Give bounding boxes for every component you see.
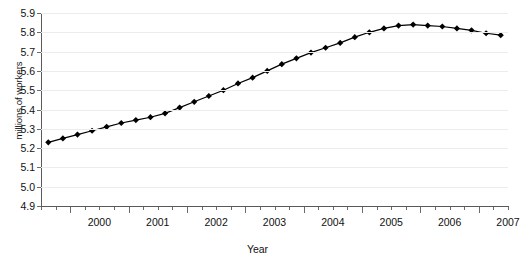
x-tick-major [70, 207, 71, 213]
data-point-marker [45, 139, 51, 145]
x-tick-minor [391, 207, 392, 210]
x-tick-minor [435, 207, 436, 210]
y-tick-mark [37, 110, 41, 111]
series-line [48, 25, 500, 143]
y-tick-mark [37, 129, 41, 130]
y-tick-label: 5.7 [1, 47, 35, 57]
data-point-marker [206, 93, 212, 99]
data-point-marker [352, 34, 358, 40]
data-point-marker [235, 80, 241, 86]
data-point-marker [118, 120, 124, 126]
gridline [41, 148, 508, 149]
x-tick-minor [289, 207, 290, 210]
y-tick-mark [37, 32, 41, 33]
data-point-marker [381, 25, 387, 31]
x-tick-minor [406, 207, 407, 210]
x-tick-minor [377, 207, 378, 210]
gridline [41, 71, 508, 72]
x-tick-minor [347, 207, 348, 210]
x-tick-label: 2000 [79, 216, 119, 228]
x-tick-major [187, 207, 188, 213]
y-tick-label: 5.8 [1, 27, 35, 37]
y-tick-mark [37, 52, 41, 53]
x-tick-major [245, 207, 246, 213]
x-tick-label: 2005 [371, 216, 411, 228]
x-tick-minor [114, 207, 115, 210]
y-tick-mark [37, 90, 41, 91]
data-point-marker [162, 110, 168, 116]
x-tick-minor [41, 207, 42, 210]
x-tick-minor [275, 207, 276, 210]
y-tick-label: 5.9 [1, 8, 35, 18]
data-point-marker [250, 75, 256, 81]
y-tick-label: 5.6 [1, 66, 35, 76]
x-tick-minor [99, 207, 100, 210]
gridline [41, 32, 508, 33]
x-tick-minor [56, 207, 57, 210]
x-tick-label: 2007 [488, 216, 524, 228]
data-point-marker [133, 117, 139, 123]
x-tick-minor [231, 207, 232, 210]
data-point-marker [279, 61, 285, 67]
x-tick-major [362, 207, 363, 213]
x-tick-minor [158, 207, 159, 210]
gridline [41, 167, 508, 168]
x-tick-minor [260, 207, 261, 210]
y-tick-label: 5.1 [1, 162, 35, 172]
data-point-marker [322, 45, 328, 51]
x-tick-minor [493, 207, 494, 210]
x-tick-minor [318, 207, 319, 210]
x-axis-title: Year [0, 243, 515, 255]
gridline [41, 52, 508, 53]
y-tick-mark [37, 148, 41, 149]
y-tick-label: 4.9 [1, 201, 35, 211]
plot-area [41, 13, 508, 206]
x-tick-major [420, 207, 421, 213]
x-tick-minor [333, 207, 334, 210]
x-tick-minor [143, 207, 144, 210]
data-point-marker [410, 21, 416, 27]
y-tick-label: 5.4 [1, 105, 35, 115]
data-point-marker [425, 22, 431, 28]
x-tick-label: 2003 [255, 216, 295, 228]
y-tick-mark [37, 187, 41, 188]
x-tick-label: 2004 [313, 216, 353, 228]
data-point-marker [60, 135, 66, 141]
data-point-marker [74, 131, 80, 137]
data-point-marker [337, 40, 343, 46]
y-tick-mark [37, 13, 41, 14]
y-tick-mark [37, 71, 41, 72]
x-tick-minor [464, 207, 465, 210]
y-tick-label: 5.2 [1, 143, 35, 153]
x-tick-major [479, 207, 480, 213]
x-tick-label: 2001 [138, 216, 178, 228]
x-tick-minor [216, 207, 217, 210]
x-tick-minor [508, 207, 509, 210]
y-tick-label: 5.0 [1, 182, 35, 192]
data-point-marker [439, 23, 445, 29]
y-tick-label: 5.5 [1, 85, 35, 95]
y-tick-mark [37, 167, 41, 168]
x-tick-label: 2006 [430, 216, 470, 228]
data-point-marker [395, 22, 401, 28]
x-tick-label: 2002 [196, 216, 236, 228]
data-point-marker [293, 55, 299, 61]
x-tick-major [304, 207, 305, 213]
x-tick-minor [202, 207, 203, 210]
x-tick-major [129, 207, 130, 213]
x-tick-minor [85, 207, 86, 210]
data-point-marker [147, 114, 153, 120]
gridline [41, 110, 508, 111]
gridline [41, 187, 508, 188]
x-tick-minor [172, 207, 173, 210]
data-point-marker [191, 99, 197, 105]
data-point-marker [454, 25, 460, 31]
x-tick-minor [450, 207, 451, 210]
gridline [41, 13, 508, 14]
gridline [41, 129, 508, 130]
gridline [41, 90, 508, 91]
y-tick-label: 5.3 [1, 124, 35, 134]
